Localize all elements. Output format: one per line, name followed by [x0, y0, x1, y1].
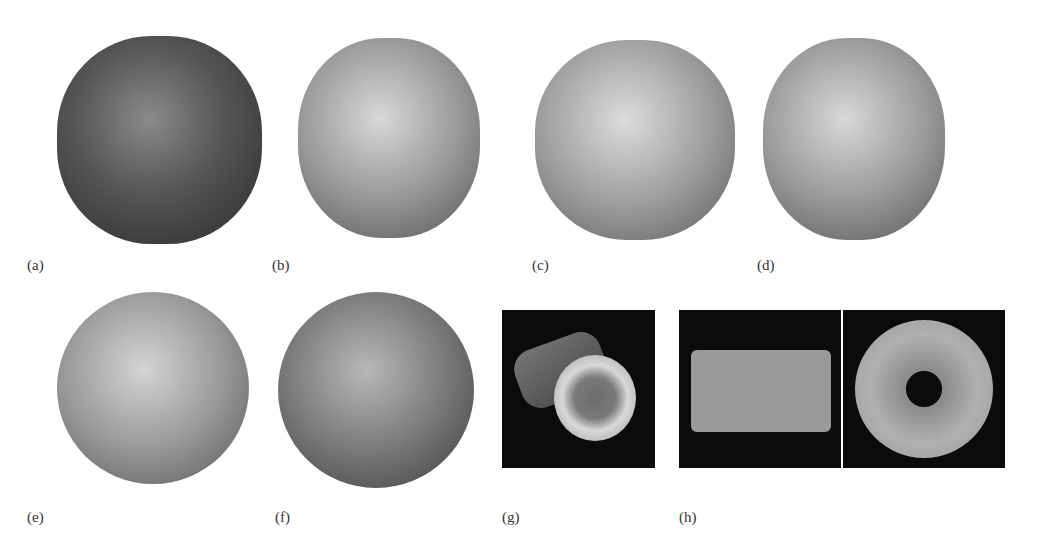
capsid-c-image	[535, 40, 735, 240]
panel-label-b: (b)	[272, 257, 290, 274]
disk-side-view-image	[679, 310, 841, 468]
panel-label-f: (f)	[275, 509, 290, 526]
helical-tube-image	[502, 310, 655, 468]
capsid-b-image	[298, 38, 480, 238]
capsid-d-image	[763, 38, 945, 240]
panel-label-d: (d)	[757, 257, 775, 274]
panel-label-a: (a)	[27, 257, 44, 274]
panel-label-h: (h)	[679, 509, 697, 526]
panel-label-c: (c)	[532, 257, 549, 274]
panel-label-e: (e)	[27, 509, 44, 526]
panel-label-g: (g)	[502, 509, 520, 526]
capsid-e-image	[57, 292, 249, 484]
capsid-a-image	[57, 36, 262, 244]
disk-top-view-image	[843, 310, 1005, 468]
capsid-f-image	[278, 292, 474, 488]
